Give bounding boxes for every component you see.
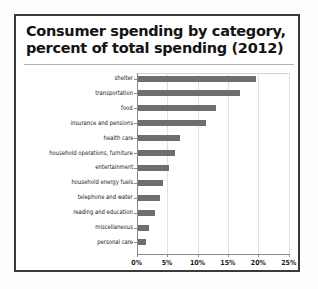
bar xyxy=(138,225,150,231)
bar xyxy=(138,195,160,201)
gridline xyxy=(167,73,168,254)
category-label: shelter xyxy=(115,75,133,82)
category-label: reading and education xyxy=(73,209,133,216)
plot-top-rule xyxy=(137,73,289,74)
bar xyxy=(138,239,147,245)
bar xyxy=(138,135,181,141)
bar xyxy=(138,105,216,111)
gridline xyxy=(289,73,290,254)
chart-card: Consumer spending by category, percent o… xyxy=(14,14,300,272)
gridline xyxy=(198,73,199,254)
gridline xyxy=(258,73,259,254)
category-label: entertainment xyxy=(95,164,133,171)
category-label: personal care xyxy=(97,239,133,246)
x-axis-line xyxy=(137,254,289,255)
x-tick-label: 15% xyxy=(220,259,235,267)
bar xyxy=(138,150,176,156)
bar xyxy=(138,120,206,126)
category-label: health care xyxy=(103,135,133,142)
bar xyxy=(138,180,163,186)
x-tick-label: 0% xyxy=(131,259,142,267)
category-label: miscellaneous xyxy=(95,224,133,231)
x-tick-label: 5% xyxy=(162,259,173,267)
gridline xyxy=(228,73,229,254)
x-tick-label: 25% xyxy=(281,259,296,267)
category-label: household operations, furniture xyxy=(50,150,133,157)
bar xyxy=(138,90,240,96)
x-tick-label: 20% xyxy=(251,259,266,267)
chart-figure: Consumer spending by category, percent o… xyxy=(0,0,318,289)
bar xyxy=(138,165,169,171)
bar xyxy=(138,76,256,82)
y-axis-line xyxy=(137,73,138,254)
category-label: telephone and water xyxy=(78,194,133,201)
x-tick-label: 10% xyxy=(190,259,205,267)
category-label: household energy fuels xyxy=(71,179,133,186)
bar xyxy=(138,210,155,216)
bar-chart-plot: sheltertransportationfoodinsurance and p… xyxy=(16,16,302,274)
category-label: food xyxy=(121,105,133,112)
x-tick-mark xyxy=(289,254,290,257)
category-label: insurance and pensions xyxy=(70,120,133,127)
category-label: transportation xyxy=(95,90,133,97)
